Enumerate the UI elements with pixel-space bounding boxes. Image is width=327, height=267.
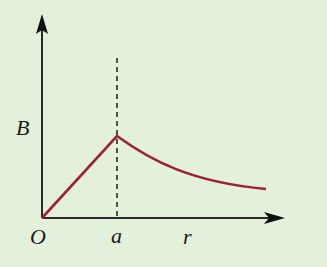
b-curve — [42, 136, 266, 218]
y-axis-label: B — [16, 115, 29, 140]
origin-label: O — [30, 224, 46, 249]
x-axis-label: r — [183, 224, 192, 249]
x-mark-label: a — [111, 223, 122, 248]
b-vs-r-diagram: B O a r — [0, 0, 327, 267]
